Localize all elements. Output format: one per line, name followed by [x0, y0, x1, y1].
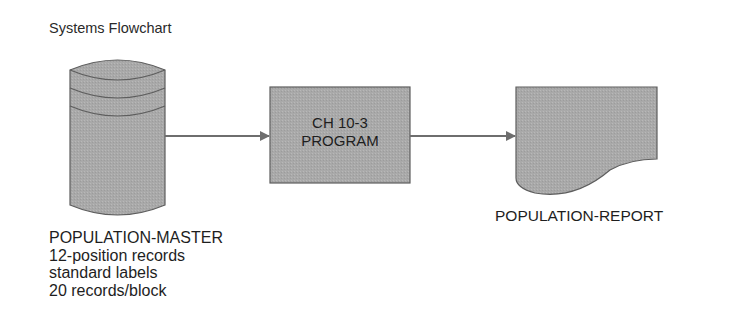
process-line-1: CH 10-3	[270, 114, 410, 132]
master-detail-1: 12-position records	[49, 247, 223, 265]
master-detail-3: 20 records/block	[49, 282, 223, 300]
document-shape	[516, 87, 657, 194]
report-label: POPULATION-REPORT	[495, 207, 663, 225]
process-box-label: CH 10-3 PROGRAM	[270, 114, 410, 150]
process-line-2: PROGRAM	[270, 132, 410, 150]
master-file-name: POPULATION-MASTER	[49, 229, 223, 247]
storage-cylinder-shape	[70, 60, 165, 215]
master-file-label: POPULATION-MASTER 12-position records st…	[49, 229, 223, 299]
master-detail-2: standard labels	[49, 264, 223, 282]
